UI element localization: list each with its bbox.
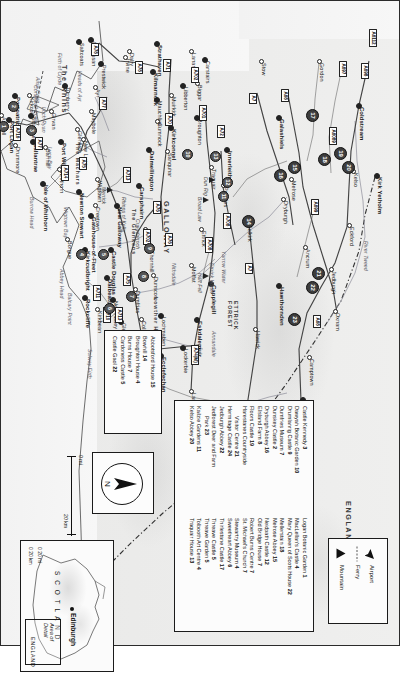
legend-entry[interactable]: Logan Botanic Garden 1 [300, 518, 308, 634]
road-number-shield[interactable]: A713 [123, 167, 131, 183]
map-town-label[interactable]: Eckford [349, 227, 355, 246]
map-town-label[interactable]: Traquair [211, 169, 217, 190]
legend-entry[interactable]: Visitor Centre 21 [233, 406, 241, 518]
attraction-marker[interactable]: 23 [288, 313, 301, 326]
locator-inset-map[interactable]: S C O T L A N D Edinburgh Area of Detail… [20, 540, 114, 672]
road-number-shield[interactable]: A714 [61, 165, 69, 181]
road-number-shield[interactable]: A77 [35, 137, 43, 150]
road-number-shield[interactable]: A68 [281, 89, 289, 102]
road-number-shield[interactable]: A70 [165, 113, 173, 126]
road-number-shield[interactable]: A711 [93, 285, 101, 301]
legend-entry[interactable]: Harestanes Countryside [240, 406, 248, 518]
attraction-marker[interactable]: 10 [182, 149, 193, 160]
road-number-shield[interactable]: A701 [199, 105, 207, 121]
map-town-label[interactable]: Ancrum [305, 249, 311, 268]
legend-entry[interactable]: Floors Castle 19 [248, 406, 256, 518]
map-town-label[interactable]: Dalmellington [149, 151, 155, 191]
map-town-label[interactable]: Thornhill [149, 251, 155, 273]
map-town-label[interactable]: Galashiels [279, 119, 285, 149]
road-number-shield[interactable]: A697 [339, 61, 347, 77]
map-town-label[interactable]: Turnberry [65, 87, 71, 111]
road-number-shield[interactable]: A76 [165, 233, 173, 246]
attraction-marker[interactable]: 20 [342, 161, 355, 174]
attraction-marker[interactable]: 17 [306, 109, 319, 122]
map-town-label[interactable]: Carstairs [205, 61, 211, 83]
legend-entry[interactable]: Threave Castle 5 [210, 518, 218, 634]
legend-entry[interactable]: Jedforest Deer and Farm [210, 406, 218, 518]
map-town-label[interactable]: Kirkbean [97, 311, 103, 333]
legend-entry[interactable]: Traquair House 13 [187, 518, 195, 634]
road-number-shield[interactable]: A698 [361, 63, 369, 79]
road-number-shield[interactable]: A716 [13, 125, 21, 141]
map-town-label[interactable]: Camptown [309, 359, 315, 386]
map-town-label[interactable]: Castle Douglas [111, 251, 117, 295]
legend-entry[interactable]: Cardoness Castle 5 [118, 336, 126, 388]
legend-entry[interactable]: Dryburgh Abbey 16 [263, 406, 271, 518]
map-town-label[interactable]: Biggar [197, 85, 203, 101]
map-town-label[interactable]: Rockcliffe [85, 299, 91, 328]
map-town-label[interactable]: Hawick [255, 331, 261, 349]
map-town-label[interactable]: Isle of Whithorn [43, 185, 49, 231]
attraction-marker[interactable]: 7 [126, 291, 137, 302]
map-town-label[interactable]: Dalry [129, 53, 135, 66]
map-town-label[interactable]: Kilmarnock [153, 73, 159, 106]
map-town-label[interactable]: Carsphairn [139, 187, 145, 219]
legend-entry[interactable]: Dumfries Museum 7 [278, 406, 286, 518]
road-number-shield[interactable]: A78 [135, 61, 143, 74]
road-number-shield[interactable]: A77 [99, 97, 107, 110]
legend-entry[interactable]: Kailzie Gardens 11 [195, 406, 203, 518]
legend-entry[interactable]: Hermitage Castle 24 [225, 406, 233, 518]
legend-entry[interactable]: Mellerstain 18 [278, 518, 286, 634]
map-town-label[interactable]: Coldstream [359, 107, 365, 140]
map-town-label[interactable]: Libberton [183, 87, 189, 110]
legend-entry[interactable]: Castle Gaol 22 [111, 336, 119, 388]
legend-entry[interactable]: Jedburgh Abbey 22 [217, 406, 225, 518]
attractions-legend-panel[interactable]: Castle Kennedy 3Dawyah Botanic Garden 10… [174, 400, 314, 632]
legend-entry[interactable]: Burns House 7 [126, 336, 134, 388]
road-number-shield[interactable]: A75 [123, 273, 131, 286]
legend-entry[interactable]: Broughton House 4 [133, 336, 141, 388]
legend-entry[interactable]: Abbotsford House 15 [148, 336, 156, 388]
road-number-shield[interactable]: A699 [311, 199, 319, 215]
map-town-label[interactable]: Hawthornden [279, 287, 285, 326]
map-town-label[interactable]: Cumnock [157, 123, 163, 146]
legend-entry[interactable]: Bowhill 14 [141, 336, 149, 388]
attraction-marker[interactable]: 21 [312, 267, 325, 280]
road-number-shield[interactable]: A708 [205, 237, 213, 253]
map-town-label[interactable]: Oxnam [335, 313, 341, 331]
road-number-shield[interactable]: A76 [153, 201, 161, 214]
road-number-shield[interactable]: A6089 [329, 127, 337, 145]
map-town-label[interactable]: Broughton [197, 119, 203, 145]
legend-entry[interactable]: Robert Burns Centre 7 [248, 518, 256, 634]
map-town-label[interactable]: Maybole [91, 113, 97, 134]
attraction-marker[interactable]: 14 [242, 215, 255, 228]
map-town-label[interactable]: Girvan [51, 113, 57, 129]
legend-entry[interactable]: MacLellan's Castle 4 [293, 518, 301, 634]
attraction-marker[interactable]: 6 [104, 303, 115, 314]
attraction-marker[interactable]: 18 [318, 153, 331, 166]
attraction-marker[interactable]: 12 [222, 177, 233, 188]
map-town-label[interactable]: Lockerbie [183, 349, 189, 373]
road-number-shield[interactable]: A6112 [369, 29, 377, 47]
map-town-label[interactable]: Saltcoats [79, 43, 85, 66]
legend-entry[interactable]: St. Michael's Church 7 [240, 518, 248, 634]
legend-entry[interactable]: Old Bridge House 7 [255, 518, 263, 634]
road-number-shield[interactable]: A68 [313, 315, 321, 328]
legend-entry[interactable]: Park 23 [202, 406, 210, 518]
legend-entry[interactable]: Neidpath Castle 12 [263, 518, 271, 634]
map-town-label[interactable]: Sanquhar [167, 153, 173, 177]
map-town-label[interactable]: Jedburgh [331, 271, 337, 294]
attraction-marker[interactable]: 2 [8, 101, 19, 112]
map-town-label[interactable]: Gordon [319, 63, 325, 82]
attraction-marker[interactable]: 3 [26, 125, 37, 136]
road-number-shield[interactable]: A708 [223, 213, 231, 229]
road-number-shield[interactable]: A72 [217, 125, 225, 138]
road-number-shield[interactable]: A74(M) [191, 345, 199, 365]
road-number-shield[interactable]: A7 [245, 263, 253, 274]
map-town-label[interactable]: Melrose [291, 181, 297, 201]
road-number-shield[interactable]: A713 [115, 307, 123, 323]
attraction-marker[interactable]: 19 [334, 147, 347, 160]
map-town-label[interactable]: Kirk Yetholm [377, 177, 383, 214]
attraction-marker[interactable]: 5 [98, 249, 109, 260]
legend-entry[interactable]: Dawyah Botanic Garden 10 [293, 406, 301, 518]
